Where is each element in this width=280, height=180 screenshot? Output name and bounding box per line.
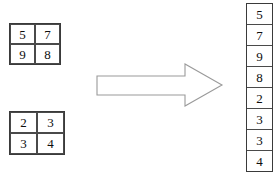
right-arrow-outline-icon xyxy=(95,60,225,110)
matrix-top-cell-r0c1: 7 xyxy=(35,24,60,44)
matrix-top: 5 7 9 8 xyxy=(9,23,61,65)
vector-cell-6: 3 xyxy=(247,130,272,151)
matrix-bottom-cell-r0c1: 3 xyxy=(37,112,64,133)
column-vector: 5 7 9 8 2 3 3 4 xyxy=(246,3,273,172)
matrix-bottom-cell-r1c0: 3 xyxy=(10,133,37,154)
vector-cell-1: 7 xyxy=(247,25,272,46)
vector-cell-2: 9 xyxy=(247,46,272,67)
matrix-bottom-cell-r1c1: 4 xyxy=(37,133,64,154)
matrix-bottom-cell-r0c0: 2 xyxy=(10,112,37,133)
arrow-shape xyxy=(97,64,222,106)
matrix-top-cell-r0c0: 5 xyxy=(10,24,35,44)
vector-cell-4: 2 xyxy=(247,88,272,109)
vector-cell-0: 5 xyxy=(247,4,272,25)
matrix-top-cell-r1c1: 8 xyxy=(35,44,60,64)
vector-cell-7: 4 xyxy=(247,151,272,171)
matrix-top-cell-r1c0: 9 xyxy=(10,44,35,64)
matrix-bottom: 2 3 3 4 xyxy=(9,111,65,155)
vector-cell-5: 3 xyxy=(247,109,272,130)
diagram-canvas: 5 7 9 8 2 3 3 4 5 7 9 8 2 3 3 4 xyxy=(0,0,280,180)
vector-cell-3: 8 xyxy=(247,67,272,88)
